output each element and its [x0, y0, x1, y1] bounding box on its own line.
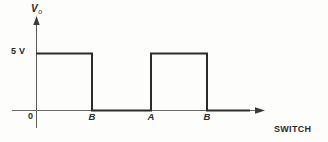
- x-tick-label-b1: B: [84, 112, 100, 122]
- x-tick-label-a: A: [143, 112, 159, 122]
- figure-canvas: Vo 5 V 0 B A B SWITCH POSITION: [0, 0, 328, 142]
- y-axis-title-subscript: o: [38, 8, 42, 15]
- x-tick-label-b2: B: [199, 112, 215, 122]
- x-axis-caption: SWITCH POSITION: [274, 103, 319, 142]
- y-axis-tick-label-5v: 5 V: [11, 47, 25, 56]
- x-axis-caption-line1: SWITCH: [274, 124, 319, 135]
- y-axis-arrowhead: [33, 16, 39, 25]
- origin-label: 0: [28, 112, 33, 121]
- x-axis-arrowhead: [255, 107, 265, 114]
- y-axis-title-base: V: [31, 3, 38, 14]
- waveform-trace: [36, 54, 250, 111]
- y-axis-title: Vo: [31, 4, 42, 15]
